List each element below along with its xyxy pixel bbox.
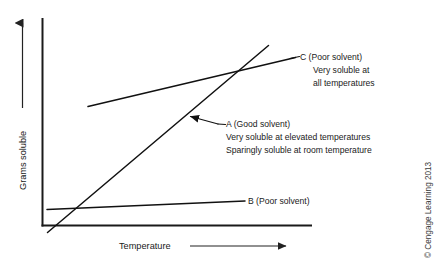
- annotation-a-label: A (Good solvent): [226, 119, 290, 129]
- series-line-b: [47, 201, 245, 210]
- pointer-arrow-a-icon: [191, 117, 219, 125]
- annotation-b: B (Poor solvent): [248, 196, 310, 206]
- leader-line-a: [218, 124, 226, 125]
- annotation-c-line2: Very soluble at: [313, 65, 370, 75]
- annotation-c: C (Poor solvent) Very soluble at all tem…: [290, 52, 375, 88]
- y-axis-label-group: Grams soluble: [18, 23, 28, 190]
- x-axis-label-group: Temperature: [119, 241, 286, 251]
- annotation-c-label: C (Poor solvent): [300, 52, 362, 62]
- y-axis-label: Grams soluble: [18, 131, 28, 190]
- annotation-a: A (Good solvent) Very soluble at elevate…: [191, 117, 372, 155]
- solubility-figure: Grams soluble Temperature C (Poor solven…: [0, 0, 443, 265]
- annotation-c-line3: all temperatures: [313, 78, 375, 88]
- copyright-credit: © Cengage Learning 2013: [424, 161, 433, 258]
- annotation-b-label: B (Poor solvent): [248, 196, 310, 206]
- x-axis-label: Temperature: [119, 241, 171, 251]
- figure-canvas: Grams soluble Temperature C (Poor solven…: [0, 0, 443, 265]
- series-line-c: [88, 58, 296, 107]
- annotation-a-line2: Very soluble at elevated temperatures: [226, 132, 370, 142]
- annotation-a-line3: Sparingly soluble at room temperature: [226, 145, 372, 155]
